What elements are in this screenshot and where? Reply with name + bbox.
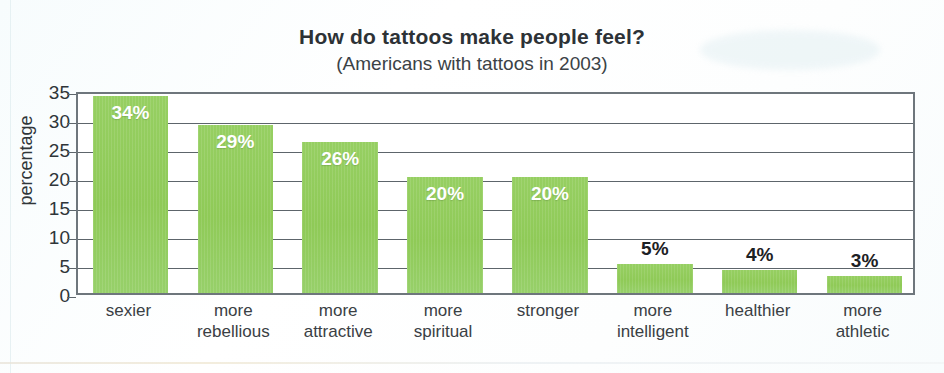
bar[interactable]: 20% bbox=[512, 177, 588, 293]
y-axis-tick-label: 35 bbox=[36, 83, 70, 102]
bar-slot: 26% bbox=[288, 94, 393, 293]
y-axis-tick bbox=[67, 239, 76, 240]
bar[interactable]: 20% bbox=[407, 177, 483, 293]
bar-value-label: 20% bbox=[407, 183, 483, 205]
bar-value-label: 20% bbox=[512, 183, 588, 205]
bar-slot: 3% bbox=[812, 94, 917, 293]
x-axis-category-label-line: more bbox=[810, 300, 915, 321]
y-axis-tick-labels: 35302520151050 bbox=[30, 92, 70, 295]
x-axis-category-label: moreathletic bbox=[810, 300, 915, 342]
x-axis-category-label-line: sexier bbox=[76, 300, 181, 321]
x-axis-category-label-line: intelligent bbox=[600, 321, 705, 342]
x-axis-category-labels: sexiermorerebelliousmoreattractivemoresp… bbox=[76, 300, 915, 360]
bar-slot: 20% bbox=[498, 94, 603, 293]
y-axis-tick bbox=[67, 123, 76, 124]
bar-slot: 34% bbox=[78, 94, 183, 293]
bar-value-label: 4% bbox=[707, 244, 812, 266]
y-axis-tick bbox=[67, 210, 76, 211]
chart-subtitle: (Americans with tattoos in 2003) bbox=[0, 52, 944, 76]
x-axis-category-label-line: stronger bbox=[496, 300, 601, 321]
x-axis-category-label-line: spiritual bbox=[391, 321, 496, 342]
y-axis-tick-label: 20 bbox=[36, 170, 70, 189]
x-axis-category-label: moreintelligent bbox=[600, 300, 705, 342]
x-axis-category-label: sexier bbox=[76, 300, 181, 321]
x-axis-category-label-line: athletic bbox=[810, 321, 915, 342]
y-axis-tick-label: 0 bbox=[36, 286, 70, 305]
bar-slot: 20% bbox=[393, 94, 498, 293]
bar-value-label: 29% bbox=[198, 131, 274, 153]
y-axis-tick bbox=[67, 297, 76, 298]
chart-title-block: How do tattoos make people feel? (Americ… bbox=[0, 24, 944, 76]
y-axis-tick-label: 5 bbox=[36, 257, 70, 276]
x-axis-category-label: healthier bbox=[705, 300, 810, 321]
y-axis-tick-label: 25 bbox=[36, 141, 70, 160]
bar[interactable]: 29% bbox=[198, 125, 274, 293]
bar-slot: 5% bbox=[602, 94, 707, 293]
y-axis-tick-label: 10 bbox=[36, 228, 70, 247]
x-axis-category-label: stronger bbox=[496, 300, 601, 321]
bar[interactable]: 34% bbox=[93, 96, 169, 293]
x-axis-category-label-line: more bbox=[600, 300, 705, 321]
bar-value-label: 26% bbox=[302, 148, 378, 170]
x-axis-category-label: moreattractive bbox=[286, 300, 391, 342]
bar-slot: 29% bbox=[183, 94, 288, 293]
x-axis-category-label-line: rebellious bbox=[181, 321, 286, 342]
bar-slot: 4% bbox=[707, 94, 812, 293]
chart-title: How do tattoos make people feel? bbox=[0, 24, 944, 50]
bar[interactable] bbox=[722, 270, 798, 293]
bar[interactable]: 26% bbox=[302, 142, 378, 293]
x-axis-category-label-line: healthier bbox=[705, 300, 810, 321]
x-axis-category-label-line: more bbox=[391, 300, 496, 321]
bar[interactable] bbox=[617, 264, 693, 293]
scan-artifact-bottom-line bbox=[0, 362, 944, 364]
x-axis-category-label-line: attractive bbox=[286, 321, 391, 342]
y-axis-tick bbox=[67, 94, 76, 95]
y-axis-tick-label: 15 bbox=[36, 199, 70, 218]
bar[interactable] bbox=[827, 276, 903, 293]
plot-area: 34%29%26%20%20%5%4%3% bbox=[76, 92, 915, 295]
x-axis-category-label-line: more bbox=[286, 300, 391, 321]
y-axis-tick bbox=[67, 152, 76, 153]
bar-value-label: 3% bbox=[812, 250, 917, 272]
x-axis-category-label: morespiritual bbox=[391, 300, 496, 342]
bar-value-label: 5% bbox=[602, 238, 707, 260]
y-axis-tick bbox=[67, 181, 76, 182]
x-axis-category-label: morerebellious bbox=[181, 300, 286, 342]
y-axis-tick-label: 30 bbox=[36, 112, 70, 131]
bar-value-label: 34% bbox=[93, 102, 169, 124]
x-axis-category-label-line: more bbox=[181, 300, 286, 321]
chart-figure: How do tattoos make people feel? (Americ… bbox=[0, 0, 944, 373]
y-axis-tick bbox=[67, 268, 76, 269]
